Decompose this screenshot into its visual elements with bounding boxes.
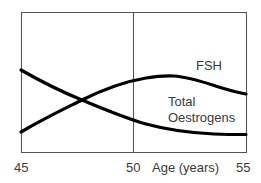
oestrogens-series-label-line2: Oestrogens: [168, 110, 236, 125]
x-axis-title: Age (years): [152, 160, 219, 175]
x-tick-label-55: 55: [236, 160, 250, 175]
oestrogens-series-label-line1: Total: [168, 94, 196, 109]
line-chart: FSH Total Oestrogens 45 50 55 Age (years…: [0, 0, 261, 183]
x-tick-label-50: 50: [126, 160, 140, 175]
chart-screenshot: FSH Total Oestrogens 45 50 55 Age (years…: [0, 0, 261, 183]
fsh-series-label: FSH: [196, 58, 222, 73]
x-tick-label-45: 45: [14, 160, 28, 175]
